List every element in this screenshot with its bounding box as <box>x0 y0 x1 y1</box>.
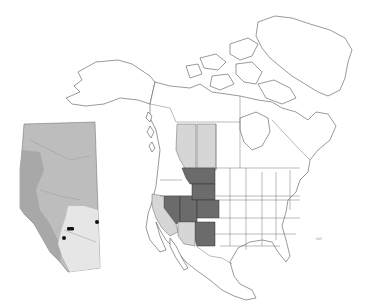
range-map: EOT <box>0 0 368 305</box>
occurrence-marker <box>62 236 66 240</box>
occurrence-marker <box>95 220 99 224</box>
north-america-map: EOT <box>0 0 368 305</box>
range-utah <box>180 196 197 222</box>
range-new-mexico <box>195 222 215 246</box>
occurrence-marker <box>67 227 74 231</box>
range-wyoming <box>192 184 215 200</box>
scale-label: EOT <box>316 237 322 241</box>
range-saskatchewan <box>197 124 216 170</box>
alaska <box>66 60 155 106</box>
mainland <box>146 82 336 300</box>
range-colorado <box>197 200 219 218</box>
alberta-inset <box>20 122 100 272</box>
